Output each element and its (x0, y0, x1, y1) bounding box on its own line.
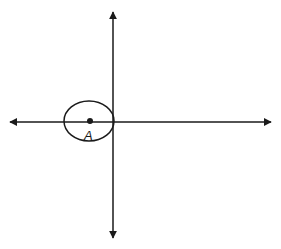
point-a-label: A (83, 128, 93, 143)
point-a-dot (87, 118, 93, 124)
diagram-canvas: A (0, 0, 281, 249)
